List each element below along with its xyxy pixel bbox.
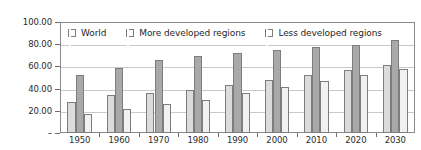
y-tick-label: – [48, 129, 52, 138]
x-tick-mark [139, 133, 140, 137]
legend-item: Less developed regions [265, 28, 382, 38]
bar [146, 93, 154, 133]
bar [312, 47, 320, 133]
bar [399, 69, 407, 133]
bar [383, 65, 391, 133]
x-tick-label: 2030 [385, 135, 406, 146]
x-tick-label: 1970 [148, 135, 169, 146]
bar [67, 102, 75, 133]
bar [391, 40, 399, 133]
x-tick-label: 1990 [227, 135, 248, 146]
chart-legend: WorldMore developed regionsLess develope… [68, 26, 402, 40]
bar [84, 114, 92, 133]
bar [115, 68, 123, 133]
legend-swatch-fill [127, 29, 129, 50]
bar [76, 75, 84, 133]
legend-item: World [68, 28, 106, 38]
legend-item: More developed regions [126, 28, 245, 38]
legend-label: More developed regions [139, 28, 245, 38]
bar [163, 104, 171, 133]
legend-swatch-fill [69, 29, 71, 50]
x-tick-mark [99, 133, 100, 137]
bar-chart: –20.0040.0060.0080.00100.00 195019601970… [0, 0, 421, 150]
y-tick-label: 40.00 [28, 84, 52, 93]
legend-label: Less developed regions [278, 28, 382, 38]
x-tick-mark [376, 133, 377, 137]
y-axis: –20.0040.0060.0080.00100.00 [0, 0, 60, 150]
x-tick-mark [178, 133, 179, 137]
y-tick-label: 100.00 [23, 18, 52, 27]
bar [155, 60, 163, 133]
x-tick-mark [297, 133, 298, 137]
x-tick-mark [218, 133, 219, 137]
x-tick-mark [336, 133, 337, 137]
bar [233, 53, 241, 133]
x-tick-label: 1950 [69, 135, 90, 146]
y-tick-label: 80.00 [28, 40, 52, 49]
x-tick-label: 1960 [109, 135, 130, 146]
bar [242, 93, 250, 133]
y-tick-label: 20.00 [28, 106, 52, 115]
x-axis: 195019601970198019902000201020202030 [60, 135, 415, 150]
x-tick-label: 2010 [306, 135, 327, 146]
x-tick-label: 2020 [345, 135, 366, 146]
bar [107, 95, 115, 133]
bar [202, 100, 210, 133]
bar [352, 45, 360, 133]
bar [320, 81, 328, 133]
bar [194, 56, 202, 133]
legend-swatch-icon [68, 29, 76, 37]
x-tick-label: 1980 [187, 135, 208, 146]
bar [186, 90, 194, 133]
bar [273, 50, 281, 133]
bar [344, 70, 352, 133]
bar [360, 75, 368, 133]
bar [265, 80, 273, 133]
legend-swatch-icon [126, 29, 134, 37]
x-tick-mark [257, 133, 258, 137]
bar [281, 87, 289, 133]
bar [304, 75, 312, 133]
y-tick-mark [55, 133, 60, 134]
legend-swatch-icon [265, 29, 273, 37]
bar [225, 85, 233, 133]
legend-label: World [81, 28, 106, 38]
y-tick-label: 60.00 [28, 62, 52, 71]
bar [123, 109, 131, 133]
x-tick-label: 2000 [266, 135, 287, 146]
